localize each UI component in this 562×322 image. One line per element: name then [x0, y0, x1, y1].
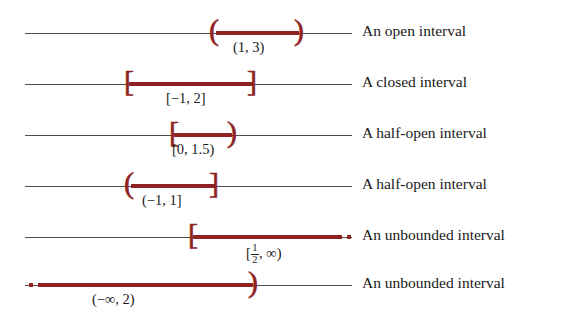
- interval-description: An unbounded interval: [362, 274, 505, 292]
- interval-segment: [174, 133, 232, 137]
- interval-notation: (1, 3): [233, 39, 264, 56]
- interval-description: A half-open interval: [362, 175, 487, 193]
- left-endpoint-paren-icon: (: [124, 168, 134, 198]
- interval-segment: [42, 283, 253, 287]
- interval-notation: [12, ∞): [246, 243, 282, 265]
- interval-notation: [−1, 2]: [166, 90, 206, 107]
- interval-description: An unbounded interval: [362, 226, 505, 244]
- right-endpoint-bracket-icon: ]: [247, 66, 257, 96]
- right-endpoint-bracket-icon: ]: [209, 168, 219, 198]
- fraction-denominator: 2: [251, 255, 258, 266]
- interval-notation: (−∞, 2): [92, 291, 135, 308]
- interval-segment: [129, 82, 253, 86]
- interval-row-unbounded-interval-left: ) (−∞, 2) An unbounded interval: [0, 285, 562, 322]
- notation-prefix: [: [246, 245, 251, 261]
- interval-number-line-figure: ( ) (1, 3) An open interval [ ] [−1, 2] …: [0, 0, 562, 322]
- interval-segment: [131, 184, 215, 188]
- right-endpoint-paren-icon: ): [227, 117, 237, 147]
- interval-notation: (−1, 1]: [142, 192, 182, 209]
- interval-segment: [193, 235, 338, 239]
- fraction-one-half: 12: [251, 243, 258, 265]
- ray-continuation-dots: [338, 235, 356, 239]
- interval-segment: [216, 31, 299, 35]
- right-endpoint-paren-icon: ): [248, 267, 258, 297]
- fraction-numerator: 1: [251, 243, 258, 255]
- right-endpoint-paren-icon: ): [294, 15, 304, 45]
- interval-description: A closed interval: [362, 73, 467, 91]
- ray-continuation-dots: [24, 283, 42, 287]
- interval-description: A half-open interval: [362, 124, 487, 142]
- left-endpoint-bracket-icon: [: [188, 219, 198, 249]
- left-endpoint-paren-icon: (: [209, 15, 219, 45]
- notation-suffix: , ∞): [259, 245, 281, 261]
- interval-row-open-interval: ( ) (1, 3) An open interval: [0, 33, 562, 85]
- left-endpoint-bracket-icon: [: [124, 66, 134, 96]
- interval-description: An open interval: [362, 22, 466, 40]
- interval-notation: [0, 1.5): [172, 141, 214, 158]
